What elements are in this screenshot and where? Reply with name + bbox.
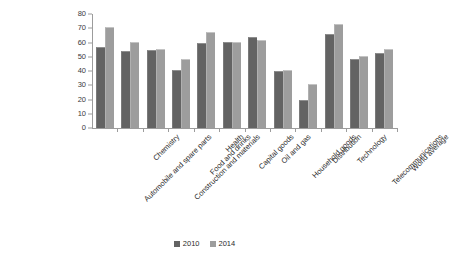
legend-swatch-icon (174, 241, 180, 247)
bar-group (346, 14, 371, 128)
bar-2010 (96, 47, 105, 128)
legend-swatch-icon (210, 241, 216, 247)
bar-group (321, 14, 346, 128)
legend-item[interactable]: 2010 (174, 240, 200, 248)
bar-groups (92, 14, 397, 128)
bar-2014 (283, 70, 292, 128)
legend-label: 2014 (219, 240, 236, 248)
x-axis-tick-mark (321, 128, 322, 132)
bar-2014 (206, 32, 215, 128)
x-axis-tick-mark (117, 128, 118, 132)
bar-2014 (359, 56, 368, 128)
bar-group (92, 14, 117, 128)
bar-2014 (232, 42, 241, 129)
bar-2010 (248, 37, 257, 128)
bar-2014 (308, 84, 317, 128)
bar-2010 (223, 42, 232, 129)
bar-2010 (375, 53, 384, 128)
bar-group (372, 14, 397, 128)
bar-2014 (156, 49, 165, 128)
x-axis-tick-mark (143, 128, 144, 132)
bar-group (117, 14, 142, 128)
bar-2014 (257, 40, 266, 128)
bar-2010 (197, 43, 206, 128)
bar-group (219, 14, 244, 128)
bar-2010 (274, 71, 283, 128)
y-axis-tick-label: 60 (78, 39, 86, 47)
bar-2014 (105, 27, 114, 128)
x-axis-tick-mark (397, 128, 398, 132)
x-axis-tick-mark (194, 128, 195, 132)
bar-2010 (121, 51, 130, 128)
bar-group (245, 14, 270, 128)
bar-2010 (299, 100, 308, 128)
y-axis-tick-label: 50 (78, 53, 86, 61)
bar-2014 (334, 24, 343, 128)
y-axis: 80706050403020100 (66, 14, 92, 129)
legend-label: 2010 (183, 240, 200, 248)
x-axis-tick-mark (168, 128, 169, 132)
bar-group (194, 14, 219, 128)
plot-area (92, 14, 397, 128)
chart-legend: 20102014 (0, 240, 409, 248)
y-axis-tick-label: 80 (78, 10, 86, 18)
y-axis-tick-label: 10 (78, 110, 86, 118)
y-axis-tick-label: 0 (82, 124, 86, 132)
x-axis-tick-mark (295, 128, 296, 132)
x-axis-tick-mark (270, 128, 271, 132)
x-axis-tick-mark (219, 128, 220, 132)
bar-2010 (350, 59, 359, 128)
bar-group (168, 14, 193, 128)
x-axis-category-labels: Automobile and spare partsChemistryConst… (92, 133, 397, 225)
bar-2014 (130, 42, 139, 129)
x-axis-tick-mark (346, 128, 347, 132)
y-axis-tick-label: 40 (78, 67, 86, 75)
legend-item[interactable]: 2014 (210, 240, 236, 248)
bar-2010 (172, 70, 181, 128)
y-axis-tick-label: 70 (78, 25, 86, 33)
bar-2010 (325, 34, 334, 128)
y-axis-tick-label: 20 (78, 96, 86, 104)
bar-group (143, 14, 168, 128)
bar-2014 (181, 59, 190, 128)
bar-group (270, 14, 295, 128)
bar-2010 (147, 50, 156, 128)
y-axis-tick-label: 30 (78, 82, 86, 90)
bar-2014 (384, 49, 393, 128)
x-axis-tick-mark (372, 128, 373, 132)
x-axis-category-label: Chemistry (152, 133, 181, 162)
bar-group (295, 14, 320, 128)
